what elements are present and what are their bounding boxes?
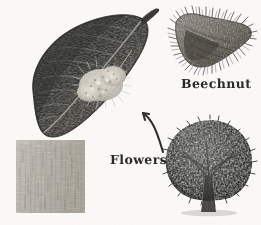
paper-grain [0,0,261,225]
botanical-plate: Beechnut Flowers [0,0,261,225]
plate-artwork [0,0,261,225]
label-flowers: Flowers [110,154,167,167]
label-beechnut: Beechnut [181,78,251,91]
